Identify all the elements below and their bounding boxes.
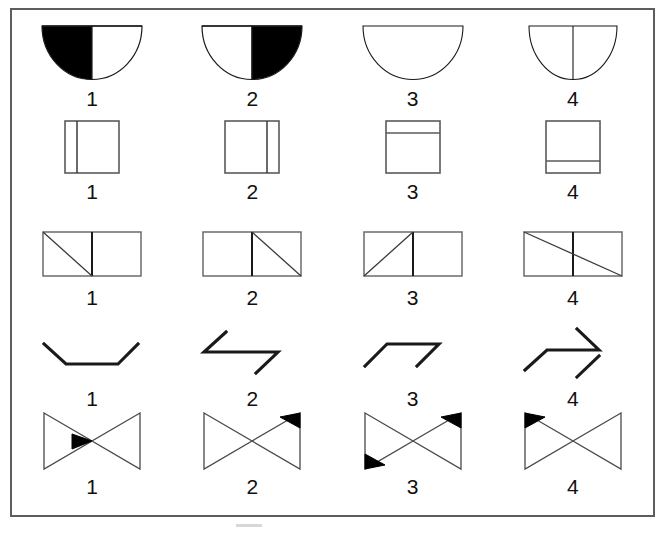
zigzag-up-flat-up-offset-icon: [515, 326, 631, 382]
figure-root: 1 2 3: [0, 0, 671, 533]
glyph-cell-bowtie-4: 4: [493, 408, 653, 497]
cropped-caption-remnant: [236, 524, 262, 527]
glyph-cell-zigzag-1: 1: [12, 326, 172, 409]
glyph-cell-double-rect-2: 2: [172, 228, 332, 308]
glyph-cell-square-1: 1: [12, 118, 172, 202]
half-disc-empty-no-divider-icon: [359, 22, 467, 84]
glyph-grid: 1 2 3: [12, 10, 653, 515]
glyph-label: 2: [247, 287, 259, 308]
double-rect-diagonal-right-cell-down-icon: [197, 228, 307, 282]
glyph-cell-half-disc-3: 3: [333, 22, 493, 109]
zigzag-down-flat-up-icon: [34, 326, 150, 382]
glyph-label: 3: [407, 388, 419, 409]
glyph-label: 4: [567, 287, 579, 308]
bowtie-top-left-filled-icon: [517, 408, 629, 474]
glyph-cell-bowtie-1: 1: [12, 408, 172, 497]
bowtie-top-right-filled-icon: [196, 408, 308, 474]
double-rect-diagonal-left-cell-down-icon: [37, 228, 147, 282]
half-disc-right-half-filled-icon: [198, 22, 306, 84]
half-disc-empty-with-divider-icon: [519, 22, 627, 84]
square-vertical-line-right-icon: [217, 118, 287, 176]
glyph-label: 1: [86, 287, 98, 308]
square-horizontal-line-bottom-icon: [538, 118, 608, 176]
glyph-label: 3: [407, 476, 419, 497]
glyph-label: 2: [247, 88, 259, 109]
glyph-label: 4: [567, 388, 579, 409]
glyph-cell-half-disc-1: 1: [12, 22, 172, 109]
glyph-label: 2: [247, 388, 259, 409]
bowtie-center-left-arrow-filled-icon: [36, 408, 148, 474]
glyph-label: 1: [86, 88, 98, 109]
half-disc-left-half-filled-icon: [38, 22, 146, 84]
glyph-cell-zigzag-4: 4: [493, 326, 653, 409]
glyph-label: 4: [567, 476, 579, 497]
glyph-cell-square-4: 4: [493, 118, 653, 202]
square-divider-row: 1 2 3: [12, 118, 653, 202]
glyph-cell-bowtie-2: 2: [172, 408, 332, 497]
double-rect-diagonal-left-cell-up-icon: [358, 228, 468, 282]
glyph-cell-zigzag-3: 3: [333, 326, 493, 409]
double-rect-diagonal-full-width-down-icon: [518, 228, 628, 282]
glyph-cell-square-3: 3: [333, 118, 493, 202]
glyph-cell-double-rect-1: 1: [12, 228, 172, 308]
bowtie-row: 1 2 3: [12, 408, 653, 497]
glyph-cell-double-rect-4: 4: [493, 228, 653, 308]
glyph-label: 3: [407, 287, 419, 308]
glyph-label: 4: [567, 181, 579, 202]
glyph-label: 1: [86, 476, 98, 497]
zigzag-row: 1 2 3: [12, 326, 653, 409]
square-horizontal-line-top-icon: [378, 118, 448, 176]
glyph-label: 1: [86, 388, 98, 409]
square-vertical-line-left-icon: [57, 118, 127, 176]
double-rectangle-diagonal-row: 1 2 3: [12, 228, 653, 308]
glyph-label: 1: [86, 181, 98, 202]
figure-frame: 1 2 3: [10, 8, 655, 517]
glyph-label: 4: [567, 88, 579, 109]
glyph-label: 2: [247, 181, 259, 202]
glyph-cell-half-disc-4: 4: [493, 22, 653, 109]
zigzag-up-flat-down-offset-icon: [194, 326, 310, 382]
glyph-cell-square-2: 2: [172, 118, 332, 202]
zigzag-up-flat-down-icon: [355, 326, 471, 382]
glyph-cell-zigzag-2: 2: [172, 326, 332, 409]
glyph-label: 3: [407, 88, 419, 109]
glyph-label: 3: [407, 181, 419, 202]
bowtie-top-right-and-bottom-left-filled-icon: [357, 408, 469, 474]
glyph-cell-half-disc-2: 2: [172, 22, 332, 109]
glyph-label: 2: [247, 476, 259, 497]
half-disc-row: 1 2 3: [12, 22, 653, 109]
glyph-cell-double-rect-3: 3: [333, 228, 493, 308]
glyph-cell-bowtie-3: 3: [333, 408, 493, 497]
